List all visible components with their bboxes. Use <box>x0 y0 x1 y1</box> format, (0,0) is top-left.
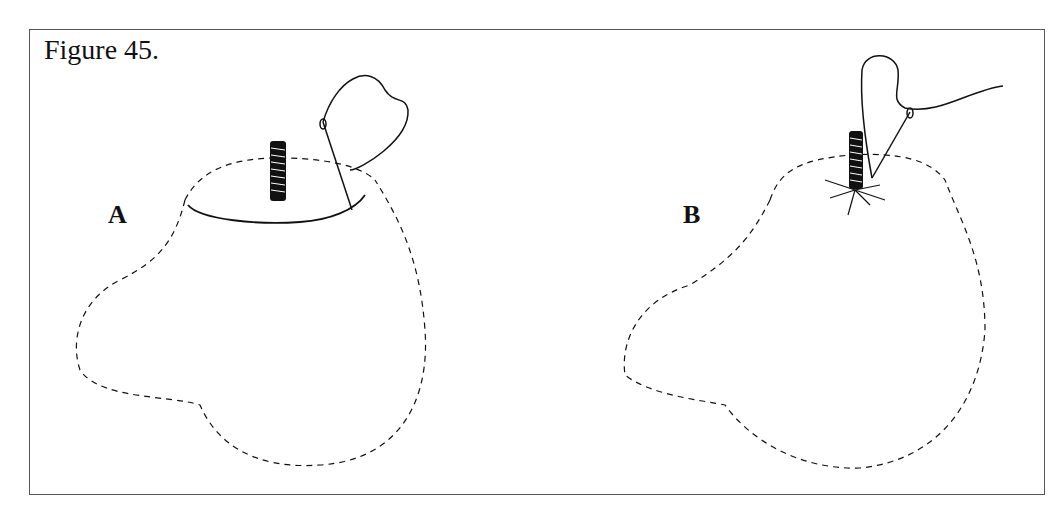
pouch-b <box>624 154 985 468</box>
illustration <box>0 0 1064 516</box>
needle-thread-a <box>320 76 408 210</box>
pouch-a <box>76 158 425 466</box>
needle-thread-b <box>862 56 1003 178</box>
threaded-post-b <box>849 131 863 189</box>
threaded-post-a <box>270 141 286 201</box>
